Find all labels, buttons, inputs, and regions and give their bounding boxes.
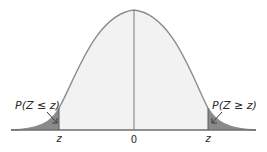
right-z-tick-label: z bbox=[204, 133, 211, 144]
left-z-tick-label: z bbox=[55, 133, 62, 144]
right-tail-label: P(Z ≥ z) bbox=[212, 99, 257, 112]
zero-tick-label: 0 bbox=[131, 134, 137, 145]
left-tail-label: P(Z ≤ z) bbox=[15, 99, 60, 112]
normal-distribution-diagram: P(Z ≤ z) P(Z ≥ z) z 0 z bbox=[0, 0, 267, 152]
